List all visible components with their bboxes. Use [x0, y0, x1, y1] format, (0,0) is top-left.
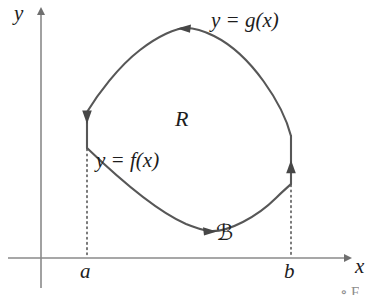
x-axis-label: x [355, 256, 364, 277]
diagram-svg [0, 0, 387, 295]
x-tick-label-a: a [80, 261, 91, 282]
figure-canvas: y x a b R y = g(x) y = f(x) ℬ ∘ F [0, 0, 387, 295]
y-axis-label: y [14, 3, 23, 24]
axis-group [8, 14, 345, 288]
arrowhead-upper-left [177, 24, 191, 32]
upper-curve-g [87, 28, 291, 136]
arrowhead-right-up [286, 160, 296, 173]
boundary-curve-group [87, 28, 291, 231]
x-tick-label-b: b [284, 261, 295, 282]
lower-curve-label: y = f(x) [96, 150, 159, 171]
orientation-arrowheads [82, 24, 296, 235]
upper-curve-label: y = g(x) [211, 10, 279, 31]
boundary-curve-label: ℬ [216, 222, 233, 244]
arrowhead-lower-right [203, 227, 217, 235]
arrowhead-left-down [82, 111, 92, 125]
region-label: R [175, 108, 188, 130]
cropped-figure-caption-fragment: ∘ F [340, 283, 359, 295]
